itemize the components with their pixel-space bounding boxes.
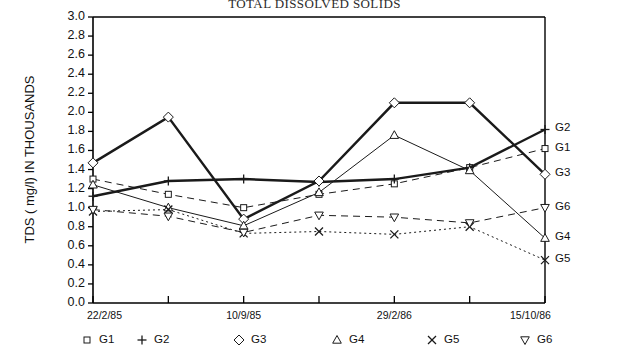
marker-square <box>165 191 171 197</box>
series-group <box>88 98 550 264</box>
legend-item-G5[interactable]: G5 <box>425 333 459 347</box>
marker-square <box>84 337 90 343</box>
legend-item-G6[interactable]: G6 <box>518 333 552 347</box>
legend-label: G6 <box>537 334 552 346</box>
marker-triangle-down <box>315 212 324 220</box>
legend-item-G3[interactable]: G3 <box>232 333 266 347</box>
chart-legend: G1G2G3G4G5G6 <box>0 333 629 355</box>
legend-item-G2[interactable]: G2 <box>135 333 169 347</box>
cross-icon <box>425 333 439 347</box>
series-line-G3 <box>93 103 545 219</box>
legend-item-G4[interactable]: G4 <box>330 333 364 347</box>
legend-label: G1 <box>99 334 114 346</box>
triangle-up-icon <box>330 333 344 347</box>
marker-triangle-down <box>541 204 550 212</box>
legend-item-G1[interactable]: G1 <box>80 333 114 347</box>
triangle-down-icon <box>518 333 532 347</box>
marker-triangle-down <box>521 337 530 345</box>
chart-root: TOTAL DISSOLVED SOLIDS TDS ( mg/l) IN TH… <box>0 0 629 360</box>
legend-label: G4 <box>349 334 364 346</box>
plot-area <box>0 0 629 360</box>
square-icon <box>80 333 94 347</box>
marker-diamond <box>234 335 244 345</box>
marker-triangle-up <box>390 131 399 139</box>
series-line-G4 <box>93 135 545 238</box>
marker-square <box>241 205 247 211</box>
legend-label: G2 <box>154 334 169 346</box>
plus-icon <box>135 333 149 347</box>
diamond-icon <box>232 333 246 347</box>
legend-label: G5 <box>444 334 459 346</box>
marker-triangle-up <box>333 336 342 344</box>
marker-triangle-down <box>390 214 399 222</box>
marker-square <box>542 146 548 152</box>
legend-label: G3 <box>251 334 266 346</box>
axes-group <box>88 17 545 303</box>
